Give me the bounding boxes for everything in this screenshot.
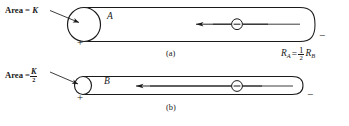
panel-b-area-denominator: 2 bbox=[30, 76, 37, 83]
panel-b-caption: (b) bbox=[166, 104, 176, 112]
panel-b-cylinder-label: B bbox=[104, 77, 110, 87]
panel-b-area-prefix: Area = bbox=[5, 70, 30, 80]
panel-a-electron-carrier bbox=[213, 19, 300, 30]
panel-a-cylinder-label: A bbox=[107, 12, 113, 22]
panel-a-area-label: Area = K bbox=[5, 6, 38, 15]
panel-b-area-label: Area =K2 bbox=[5, 68, 37, 83]
equation-rhs: RB bbox=[305, 49, 315, 59]
equation-lhs: RA bbox=[281, 49, 291, 59]
equation-relation: = bbox=[292, 50, 297, 59]
panel-a-caption: (a) bbox=[166, 50, 175, 58]
equation-coefficient-numerator: 1 bbox=[298, 46, 304, 55]
panel-a-positive-terminal: + bbox=[77, 37, 83, 48]
equation-coefficient: 12 bbox=[298, 46, 304, 63]
panel-b-electron-carrier bbox=[150, 81, 293, 92]
resistance-comparison-figure: Area = K A + − (a) Area =K2 B + − (b) RA… bbox=[0, 0, 349, 126]
panel-a-negative-terminal: − bbox=[319, 30, 325, 41]
panel-b-area-numerator: K bbox=[30, 68, 37, 76]
panel-b-positive-terminal: + bbox=[77, 92, 83, 103]
panel-b-area-fraction: K2 bbox=[30, 68, 37, 83]
panel-a-area-value: K bbox=[32, 5, 38, 15]
panel-b-negative-terminal: − bbox=[307, 89, 313, 100]
panel-a-area-prefix: Area = bbox=[5, 5, 30, 15]
panel-b-leader-line bbox=[50, 72, 78, 84]
resistance-equation: RA=12RB bbox=[281, 46, 315, 63]
equation-coefficient-denominator: 2 bbox=[298, 54, 304, 62]
